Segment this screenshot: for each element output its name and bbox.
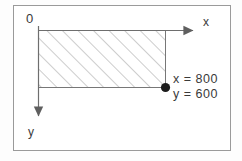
x-axis-label: x [203, 16, 209, 28]
y-value-label: y = 600 [173, 88, 218, 101]
x-value-label: x = 800 [173, 73, 218, 86]
y-axis-label: y [28, 126, 34, 138]
origin-label: 0 [26, 12, 33, 25]
hatched-region [39, 31, 166, 88]
corner-point-marker [161, 83, 170, 92]
screenshot-root: 0 x y x = 800 y = 600 [0, 0, 242, 161]
